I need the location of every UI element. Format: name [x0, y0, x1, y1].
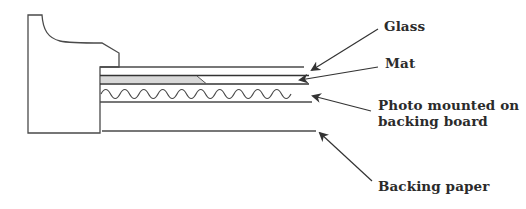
photo-wave	[101, 90, 291, 99]
photo-label: Photo mounted on backing board	[378, 97, 519, 129]
photo-label-line2: backing board	[378, 113, 519, 129]
glass-arrow	[312, 29, 378, 70]
backing-paper-label: Backing paper	[378, 178, 489, 194]
mat-label: Mat	[385, 55, 415, 71]
backing-paper-arrow	[320, 133, 372, 181]
frame-moulding	[28, 15, 119, 133]
photo-arrow	[313, 96, 371, 111]
photo-label-line1: Photo mounted on	[378, 97, 519, 113]
glass-label: Glass	[384, 18, 425, 34]
mat-layer	[101, 76, 206, 83]
mat-arrow	[300, 67, 378, 80]
